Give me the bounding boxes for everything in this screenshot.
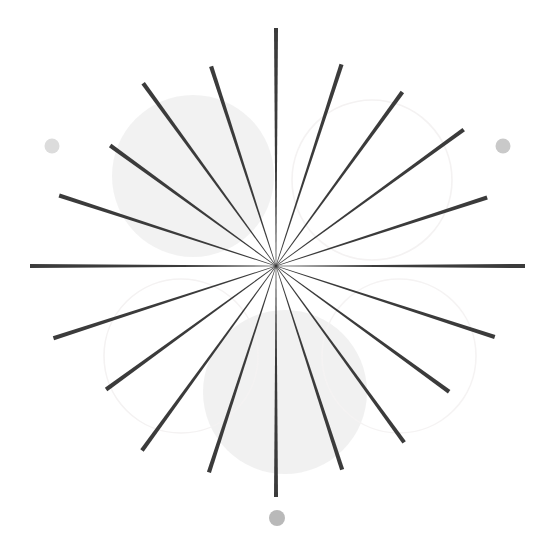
ray-02 <box>276 128 465 266</box>
burst-canvas <box>0 0 553 544</box>
radial-burst-figure <box>0 0 553 544</box>
ray-10 <box>30 264 276 268</box>
ray-00 <box>276 264 525 268</box>
ray-01 <box>276 195 488 266</box>
ray-03 <box>276 91 404 266</box>
ray-05 <box>274 28 278 266</box>
blob-bottom <box>203 310 367 474</box>
ring-upper-right <box>292 100 452 260</box>
dot-bottom <box>269 510 285 526</box>
blob-upper-left <box>112 95 274 257</box>
dot-left <box>45 139 60 154</box>
ray-04 <box>276 64 344 266</box>
dot-right <box>496 139 511 154</box>
